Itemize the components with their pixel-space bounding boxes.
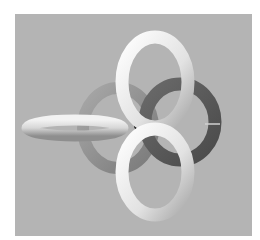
- linked-tori-render: [0, 0, 260, 240]
- left-horizontal-ring: [27, 120, 123, 136]
